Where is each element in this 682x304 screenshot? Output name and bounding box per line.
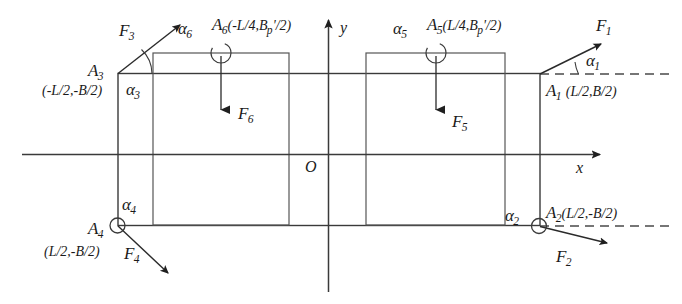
axis-label-y: y (340, 20, 347, 36)
force-label-f4: F4 (124, 245, 139, 266)
point-label-a1: A1 (L/2,B/2) (546, 82, 617, 103)
axis-label-x: x (576, 160, 583, 176)
point-coords-a4: (L/2,-B/2) (44, 245, 100, 259)
point-label-a3: A3 (88, 62, 103, 83)
force-label-f2: F2 (556, 248, 571, 269)
force-label-f6: F6 (238, 105, 253, 126)
point-label-a6: A6(-L/4,Bp'/2) (212, 16, 291, 37)
angle-label-alpha2: α2 (505, 207, 519, 228)
point-coords-a3: (-L/2,-B/2) (42, 84, 102, 98)
point-label-a5: A5(L/4,Bp'/2) (427, 16, 502, 37)
point-label-a2: A2(L/2,-B/2) (546, 204, 617, 225)
force-label-f1: F1 (596, 17, 611, 38)
force-diagram: F3 α6 A6(-L/4,Bp'/2) y α5 A5(L/4,Bp'/2) … (0, 0, 682, 304)
force-label-f3: F3 (119, 22, 134, 43)
point-label-a4: A4 (88, 220, 103, 241)
angle-label-alpha5: α5 (393, 20, 407, 41)
angle-label-alpha1: α1 (586, 52, 600, 73)
angle-label-alpha3: α3 (126, 81, 140, 102)
angle-label-alpha6: α6 (178, 20, 192, 41)
force-label-f5: F5 (452, 113, 467, 134)
origin-label: O (305, 159, 317, 175)
angle-label-alpha4: α4 (122, 196, 136, 217)
diagram-canvas (0, 0, 682, 304)
